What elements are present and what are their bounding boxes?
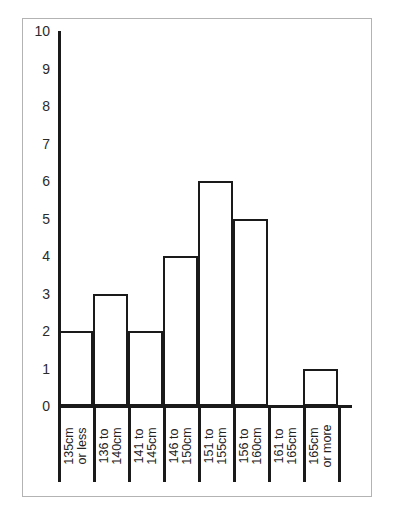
- x-tick-lane: 135cmor less: [58, 409, 93, 483]
- x-tick-label-line: 140cm: [111, 427, 124, 465]
- x-tick-lane: 151 to155cm: [198, 409, 233, 483]
- x-tick-label: 141 to145cm: [133, 427, 159, 465]
- y-tick-label: 10: [20, 24, 50, 38]
- x-tick-label-line: 156 to: [237, 429, 251, 464]
- x-tick-label-line: 145cm: [146, 427, 159, 465]
- y-tick-label: 9: [20, 62, 50, 76]
- bar: [128, 331, 163, 406]
- y-tick-label: 5: [20, 212, 50, 226]
- x-tick-lane: 136 to140cm: [93, 409, 128, 483]
- x-tick-lane: 156 to160cm: [233, 409, 268, 483]
- x-tick-label: 136 to140cm: [98, 427, 124, 465]
- x-tick-label-line: 155cm: [216, 427, 229, 465]
- y-tick-label: 3: [20, 287, 50, 301]
- x-tick-label-line: 150cm: [181, 427, 194, 465]
- x-tick-label-line: 136 to: [97, 429, 111, 464]
- x-tick-lane: 161 to165cm: [268, 409, 303, 483]
- x-tick-lane: 165cmor more: [303, 409, 338, 483]
- bar: [233, 219, 268, 407]
- x-tick-label-line: 160cm: [251, 427, 264, 465]
- x-tick-label-line: 146 to: [167, 429, 181, 464]
- x-tick-label: 146 to150cm: [168, 427, 194, 465]
- x-tick-label: 135cmor less: [63, 427, 89, 465]
- x-tick-label: 165cmor more: [308, 424, 334, 467]
- y-tick-label: 1: [20, 362, 50, 376]
- x-tick-label-line: or more: [321, 424, 334, 467]
- y-tick-label: 2: [20, 324, 50, 338]
- y-tick-label: 7: [20, 137, 50, 151]
- x-tick-label: 161 to165cm: [273, 427, 299, 465]
- x-tick-label-line: 141 to: [132, 429, 146, 464]
- figure-container: 012345678910 135cmor less136 to140cm141 …: [0, 0, 394, 517]
- x-tick-label: 156 to160cm: [238, 427, 264, 465]
- x-tick-label-line: 161 to: [272, 429, 286, 464]
- bar-chart-plot-area: 012345678910 135cmor less136 to140cm141 …: [0, 0, 394, 517]
- y-tick-label: 8: [20, 99, 50, 113]
- bar: [303, 369, 338, 407]
- bar: [163, 256, 198, 406]
- x-tick-label-line: or less: [76, 427, 89, 465]
- bar: [198, 181, 233, 406]
- x-tick-label: 151 to155cm: [203, 427, 229, 465]
- y-tick-label: 6: [20, 174, 50, 188]
- x-tick-label-line: 165cm: [307, 427, 321, 465]
- x-tick-lane: 141 to145cm: [128, 409, 163, 483]
- x-tick-lane: 146 to150cm: [163, 409, 198, 483]
- x-tick-label-line: 151 to: [202, 429, 216, 464]
- x-label-divider: [338, 406, 341, 482]
- x-tick-label-line: 165cm: [286, 427, 299, 465]
- bar: [93, 294, 128, 407]
- x-tick-label-line: 135cm: [62, 427, 76, 465]
- y-tick-label: 0: [20, 399, 50, 413]
- y-tick-label: 4: [20, 249, 50, 263]
- bar: [58, 331, 93, 406]
